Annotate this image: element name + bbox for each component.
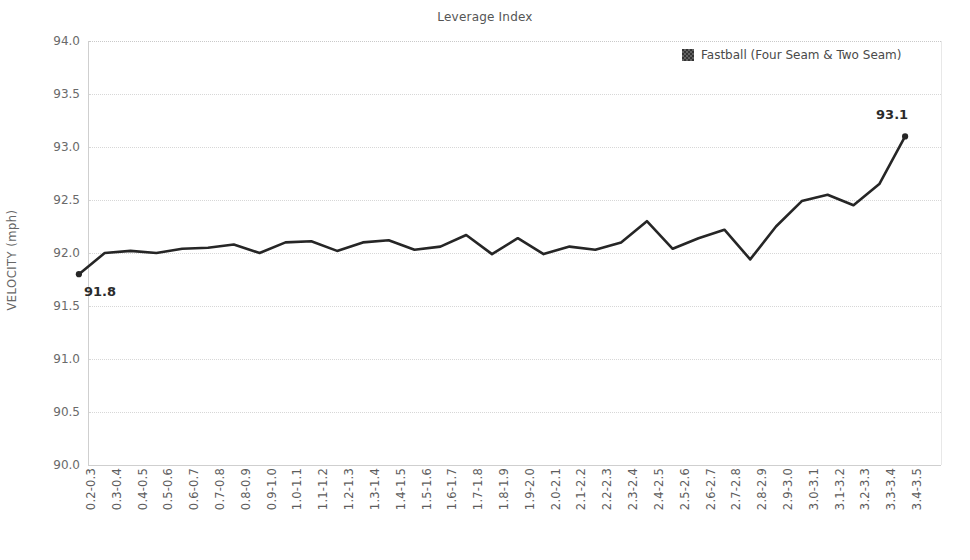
x-axis-tick-label: 2.5-2.6 [678, 468, 692, 510]
x-axis-tick-label: 2.7-2.8 [729, 468, 743, 510]
x-axis-tick-label: 1.1-1.2 [316, 468, 330, 510]
gridline [89, 359, 941, 360]
plot-area [88, 41, 942, 465]
x-axis-tick-label: 0.4-0.5 [136, 468, 150, 510]
x-axis-tick-label: 2.1-2.2 [574, 468, 588, 510]
y-axis-tick-label: 91.0 [53, 352, 80, 366]
y-axis-label: VELOCITY (mph) [5, 180, 19, 340]
gridline [89, 253, 941, 254]
x-axis-line [88, 465, 941, 466]
x-axis-tick-label: 0.9-1.0 [265, 468, 279, 510]
legend-label: Fastball (Four Seam & Two Seam) [701, 48, 901, 62]
y-axis-tick-label: 90.0 [53, 458, 80, 472]
y-axis-tick-label: 92.5 [53, 193, 80, 207]
x-axis-tick-label: 0.8-0.9 [239, 468, 253, 510]
x-axis-tick-label: 2.2-2.3 [600, 468, 614, 510]
x-axis-tick-label: 0.3-0.4 [110, 468, 124, 510]
gridline [89, 147, 941, 148]
x-axis-tick-label: 0.6-0.7 [187, 468, 201, 510]
y-axis-tick-label: 94.0 [53, 34, 80, 48]
x-axis-tick-label: 2.0-2.1 [549, 468, 563, 510]
chart-title: Leverage Index [0, 10, 970, 24]
x-axis-tick-label: 1.8-1.9 [497, 468, 511, 510]
legend-swatch-icon [682, 49, 694, 61]
x-axis-tick-label: 3.4-3.5 [910, 468, 924, 510]
x-axis-tick-label: 2.6-2.7 [704, 468, 718, 510]
x-axis-tick-label: 2.4-2.5 [652, 468, 666, 510]
chart-container: Leverage Index 94.093.593.092.592.091.59… [0, 0, 970, 560]
point-value-label: 91.8 [84, 284, 116, 299]
y-axis-tick-label: 91.5 [53, 299, 80, 313]
x-axis-tick-label: 0.7-0.8 [213, 468, 227, 510]
point-value-label: 93.1 [876, 107, 908, 122]
x-axis-tick-label: 2.3-2.4 [626, 468, 640, 510]
x-axis-tick-label: 2.9-3.0 [781, 468, 795, 510]
x-axis-tick-label: 1.5-1.6 [420, 468, 434, 510]
gridline [89, 200, 941, 201]
y-axis-tick-label: 93.5 [53, 87, 80, 101]
gridline [89, 412, 941, 413]
y-axis-tick-label: 92.0 [53, 246, 80, 260]
x-axis-tick-label: 2.8-2.9 [755, 468, 769, 510]
x-axis-tick-label: 3.3-3.4 [884, 468, 898, 510]
cropped-top-strip [0, 0, 970, 6]
gridline [89, 41, 941, 42]
x-axis-tick-label: 3.1-3.2 [833, 468, 847, 510]
x-axis-tick-label: 3.0-3.1 [807, 468, 821, 510]
x-axis-tick-label: 3.2-3.3 [858, 468, 872, 510]
x-axis-ticks: 0.2-0.30.3-0.40.4-0.50.5-0.60.6-0.70.7-0… [88, 468, 940, 560]
x-axis-tick-label: 0.2-0.3 [84, 468, 98, 510]
gridline [89, 306, 941, 307]
x-axis-tick-label: 1.4-1.5 [394, 468, 408, 510]
x-axis-tick-label: 1.2-1.3 [342, 468, 356, 510]
gridline [89, 94, 941, 95]
x-axis-tick-label: 0.5-0.6 [161, 468, 175, 510]
y-axis-tick-label: 93.0 [53, 140, 80, 154]
x-axis-tick-label: 1.9-2.0 [523, 468, 537, 510]
y-axis-tick-label: 90.5 [53, 405, 80, 419]
x-axis-tick-label: 1.6-1.7 [445, 468, 459, 510]
chart-legend: Fastball (Four Seam & Two Seam) [682, 48, 901, 62]
x-axis-tick-label: 1.3-1.4 [368, 468, 382, 510]
x-axis-tick-label: 1.7-1.8 [471, 468, 485, 510]
x-axis-tick-label: 1.0-1.1 [290, 468, 304, 510]
